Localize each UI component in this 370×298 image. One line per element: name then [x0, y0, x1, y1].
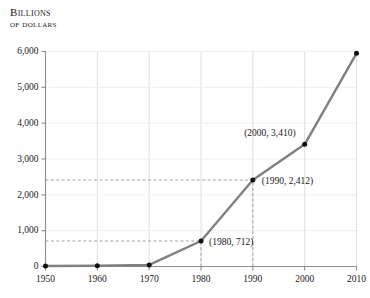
y-tick-label: 0: [34, 261, 39, 271]
y-tick-label: 2,000: [17, 190, 39, 200]
data-point-annotation: (1990, 2,412): [262, 176, 313, 187]
data-point-marker: [302, 142, 307, 147]
x-tick-label: 1990: [243, 274, 262, 284]
y-tick-label: 1,000: [17, 225, 39, 235]
x-tick-label: 1970: [140, 274, 159, 284]
data-point-marker: [43, 264, 48, 269]
data-point-marker: [147, 262, 152, 267]
data-point-annotation: (2000, 3,410): [244, 128, 295, 139]
chart-container: Billions of dollars 01,0002,0003,0004,00…: [0, 0, 370, 298]
x-tick-label: 1960: [88, 274, 107, 284]
data-point-marker: [199, 238, 204, 243]
x-tick-label: 1980: [192, 274, 211, 284]
data-point-annotation: (1980, 712): [209, 237, 253, 248]
x-tick-label: 2000: [295, 274, 314, 284]
y-tick-label: 6,000: [17, 46, 39, 56]
line-chart-plot: 01,0002,0003,0004,0005,0006,000 19501960…: [0, 0, 370, 298]
vertical-gridlines: [97, 52, 356, 267]
data-point-marker: [95, 263, 100, 268]
y-tick-label: 4,000: [17, 118, 39, 128]
x-tick-label: 2010: [347, 274, 366, 284]
x-axis-ticks: 1950196019701980199020002010: [36, 267, 366, 284]
data-point-annotations: (1980, 712)(1990, 2,412)(2000, 3,410): [209, 128, 313, 248]
y-axis-ticks: 01,0002,0003,0004,0005,0006,000: [17, 46, 45, 271]
y-tick-label: 5,000: [17, 82, 39, 92]
data-point-marker: [354, 51, 359, 56]
data-point-marker: [250, 178, 255, 183]
x-tick-label: 1950: [36, 274, 55, 284]
y-tick-label: 3,000: [17, 154, 39, 164]
